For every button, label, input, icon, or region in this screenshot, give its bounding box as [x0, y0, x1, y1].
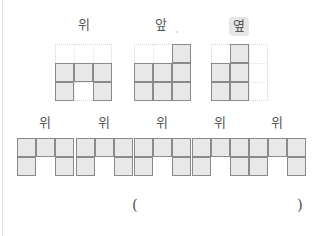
top-view-label: 위: [74, 16, 94, 34]
filled-cell: [172, 157, 191, 176]
filled-cell: [153, 63, 172, 82]
filled-cell: [268, 138, 287, 157]
answer-open-paren: (: [132, 196, 138, 214]
option-3-label: 위: [152, 114, 172, 132]
option-4-shape[interactable]: [192, 138, 249, 177]
filled-cell: [249, 157, 268, 176]
filled-cell: [93, 63, 112, 82]
option-2-shape[interactable]: [76, 138, 133, 177]
filled-cell: [192, 157, 211, 176]
filled-cell: [55, 157, 74, 176]
filled-cell: [211, 63, 230, 82]
option-5-shape[interactable]: [249, 138, 306, 177]
filled-cell: [134, 82, 153, 101]
option-1-shape[interactable]: [17, 138, 74, 177]
filled-cell: [17, 157, 36, 176]
filled-cell: [93, 82, 112, 101]
filled-cell: [211, 82, 230, 101]
filled-cell: [153, 138, 172, 157]
answer-close-paren: ): [297, 196, 303, 214]
filled-cell: [249, 138, 268, 157]
filled-cell: [230, 82, 249, 101]
filled-cell: [172, 63, 191, 82]
filled-cell: [55, 138, 74, 157]
filled-cell: [55, 63, 74, 82]
filled-cell: [36, 138, 55, 157]
filled-cell: [76, 138, 95, 157]
front-label-mark: [176, 31, 178, 33]
filled-cell: [134, 138, 153, 157]
front-view-label: 앞: [151, 16, 171, 34]
filled-cell: [230, 44, 249, 63]
answer-field[interactable]: [142, 196, 292, 216]
top-view-grid: [55, 44, 112, 102]
filled-cell: [134, 157, 153, 176]
filled-cell: [230, 157, 249, 176]
filled-cell: [172, 82, 191, 101]
filled-cell: [55, 82, 74, 101]
filled-cell: [17, 138, 36, 157]
option-1-label: 위: [35, 114, 55, 132]
filled-cell: [114, 157, 133, 176]
filled-cell: [95, 138, 114, 157]
filled-cell: [172, 44, 191, 63]
filled-cell: [134, 63, 153, 82]
filled-cell: [172, 138, 191, 157]
grid-guide-line: [249, 44, 250, 101]
filled-cell: [192, 138, 211, 157]
filled-cell: [287, 157, 306, 176]
filled-cell: [153, 82, 172, 101]
filled-cell: [211, 138, 230, 157]
filled-cell: [76, 157, 95, 176]
option-3-shape[interactable]: [134, 138, 191, 177]
filled-cell: [230, 63, 249, 82]
option-2-label: 위: [94, 114, 114, 132]
side-view-grid: [211, 44, 268, 102]
filled-cell: [74, 63, 93, 82]
filled-cell: [114, 138, 133, 157]
front-view-grid: [134, 44, 191, 102]
left-margin-rule: [2, 0, 3, 236]
filled-cell: [230, 138, 249, 157]
side-view-label: 옆: [229, 17, 249, 36]
filled-cell: [287, 138, 306, 157]
option-5-label: 위: [267, 114, 287, 132]
option-4-label: 위: [210, 114, 230, 132]
